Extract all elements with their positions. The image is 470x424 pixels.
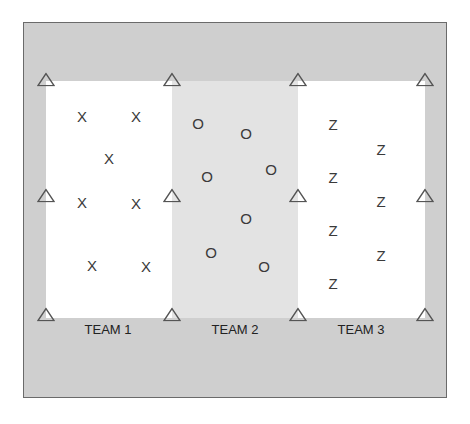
cone-triangle-icon [163, 189, 181, 203]
team-3-zone [298, 81, 425, 318]
cone-triangle-icon [37, 73, 55, 87]
cone-triangle-icon [416, 189, 434, 203]
team-1-zone [46, 81, 172, 318]
team-3-player-marker: Z [328, 223, 337, 238]
team-2-player-marker: O [258, 259, 270, 274]
team-1-player-marker: X [131, 109, 141, 124]
cone-triangle-icon [163, 308, 181, 322]
team-2-player-marker: O [265, 162, 277, 177]
cone-triangle-icon [289, 73, 307, 87]
team-1-player-marker: X [141, 259, 151, 274]
cone-triangle-icon [416, 308, 434, 322]
team-3-player-marker: Z [328, 276, 337, 291]
cone-triangle-icon [37, 189, 55, 203]
team-2-zone [172, 81, 298, 318]
team-3-player-marker: Z [376, 142, 385, 157]
team-2-player-marker: O [201, 169, 213, 184]
team-3-player-marker: Z [376, 194, 385, 209]
team-drill-diagram: XXXXXXXOOOOOOOZZZZZZZ TEAM 1 TEAM 2 TEAM… [0, 0, 470, 424]
team-1-player-marker: X [77, 195, 87, 210]
team-2-player-marker: O [240, 126, 252, 141]
team-1-label: TEAM 1 [85, 322, 132, 337]
team-1-player-marker: X [131, 196, 141, 211]
cone-triangle-icon [289, 308, 307, 322]
team-1-player-marker: X [77, 109, 87, 124]
team-2-player-marker: O [205, 245, 217, 260]
team-3-player-marker: Z [328, 170, 337, 185]
team-3-player-marker: Z [328, 117, 337, 132]
cone-triangle-icon [289, 189, 307, 203]
cone-triangle-icon [163, 73, 181, 87]
cone-triangle-icon [416, 73, 434, 87]
team-3-player-marker: Z [376, 248, 385, 263]
team-2-player-marker: O [240, 211, 252, 226]
team-1-player-marker: X [104, 151, 114, 166]
team-2-player-marker: O [192, 116, 204, 131]
team-2-label: TEAM 2 [212, 322, 259, 337]
team-1-player-marker: X [87, 258, 97, 273]
team-3-label: TEAM 3 [338, 322, 385, 337]
cone-triangle-icon [37, 308, 55, 322]
